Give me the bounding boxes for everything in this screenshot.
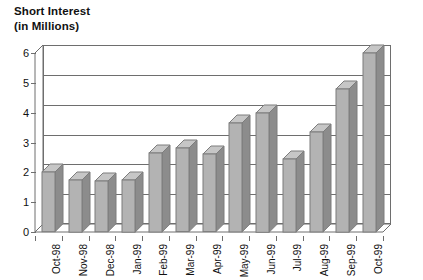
bar [95,173,108,232]
x-tick-mark [383,236,384,241]
bar-3d-shape [42,164,63,232]
bar [283,151,296,232]
y-tick-mark [31,232,36,233]
y-axis-tick-label: 5 [23,77,29,88]
bar-3d-shape [363,45,384,232]
bar [42,164,55,232]
bar [176,140,189,232]
bar-3d-shape [122,172,143,232]
bar-3d-shape [69,172,90,232]
bar [363,45,376,232]
bar [203,146,216,232]
x-axis-tick-label: May-99 [240,244,250,277]
x-tick-mark [222,236,223,241]
x-tick-mark [303,236,304,241]
x-axis-tick-label: Mar-99 [186,244,196,276]
x-tick-mark [276,236,277,241]
bar-3d-shape [229,115,250,232]
y-axis-tick-label: 6 [23,48,29,59]
x-axis-tick-label: Dec-98 [106,244,116,276]
bar [149,145,162,232]
short-interest-bar-chart: Short Interest (in Millions) 0123456 Oct… [0,0,423,280]
bar-3d-shape [149,145,170,232]
bar [229,115,242,232]
bar-3d-shape [95,173,116,232]
x-tick-mark [35,236,36,241]
x-tick-mark [249,236,250,241]
chart-subtitle: (in Millions) [14,19,79,34]
bar [336,81,349,232]
x-axis-tick-label: Aug-99 [320,244,330,276]
bar [310,124,323,232]
x-axis-tick-label: Jan-99 [133,244,143,275]
x-tick-mark [196,236,197,241]
x-tick-mark [115,236,116,241]
bar [256,105,269,232]
bar-3d-shape [256,105,277,232]
bar-series [35,45,391,232]
y-axis-tick-label: 3 [23,137,29,148]
page-title: Short Interest [14,4,90,19]
bar-3d-shape [283,151,304,232]
bar-3d-shape [203,146,224,232]
y-axis-tick-label: 1 [23,197,29,208]
x-axis-tick-label: Sep-99 [347,244,357,276]
x-tick-mark [329,236,330,241]
x-axis-tick-label: Oct-98 [52,244,62,274]
x-axis-tick-label: Oct-99 [374,244,384,274]
x-tick-mark [356,236,357,241]
y-axis-tick-label: 4 [23,107,29,118]
x-tick-mark [62,236,63,241]
bar [122,172,135,232]
x-axis-tick-label: Nov-98 [79,244,89,276]
x-axis-tick-label: Feb-99 [159,244,169,276]
bar-3d-shape [176,140,197,232]
x-tick-mark [89,236,90,241]
bar [69,172,82,232]
x-axis: Oct-98Nov-98Dec-98Jan-99Feb-99Mar-99Apr-… [35,236,391,280]
x-axis-tick-label: Jul-99 [293,244,303,271]
x-tick-mark [169,236,170,241]
x-tick-mark [142,236,143,241]
x-axis-tick-label: Apr-99 [213,244,223,274]
y-axis-tick-label: 0 [23,227,29,238]
bar-3d-shape [310,124,331,232]
plot-area: 0123456 [35,45,391,232]
x-axis-tick-label: Jun-99 [267,244,277,275]
bar-3d-shape [336,81,357,232]
y-axis-tick-label: 2 [23,167,29,178]
